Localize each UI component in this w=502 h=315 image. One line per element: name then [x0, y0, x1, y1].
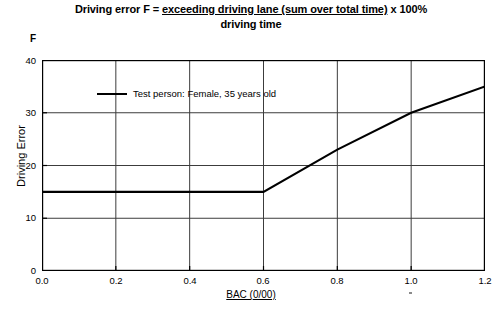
scan-artifact-mark: [409, 292, 412, 294]
y-tick-label-40: 40: [6, 56, 36, 66]
legend-line-swatch: [97, 93, 127, 95]
x-tick-label-0.4: 0.4: [170, 276, 210, 286]
x-tick-label-1.2: 1.2: [465, 276, 502, 286]
title-prefix: Driving error F =: [75, 3, 162, 15]
y-tick-label-10: 10: [6, 213, 36, 223]
y-axis-label: Driving Error: [15, 111, 27, 201]
x-tick-label-1.0: 1.0: [391, 276, 431, 286]
x-axis-label: BAC (0/00): [0, 289, 502, 300]
y-tick-label-30: 30: [6, 108, 36, 118]
y-axis-symbol: F: [30, 33, 36, 44]
x-axis-label-text: BAC (0/00): [226, 289, 275, 300]
x-tick-label-0.6: 0.6: [243, 276, 283, 286]
title-denominator: driving time: [0, 17, 502, 32]
cropped-caption-edge: [0, 309, 502, 315]
legend: Test person: Female, 35 years old: [97, 89, 276, 99]
x-tick-label-0.2: 0.2: [96, 276, 136, 286]
chart-title: Driving error F = exceeding driving lane…: [0, 2, 502, 32]
x-tick-label-0.8: 0.8: [317, 276, 357, 286]
figure: Driving error F = exceeding driving lane…: [0, 0, 502, 315]
legend-label-0: Test person: Female, 35 years old: [133, 89, 276, 99]
y-tick-label-20: 20: [6, 161, 36, 171]
title-suffix: x 100%: [387, 3, 427, 15]
x-tick-label-0.0: 0.0: [22, 276, 62, 286]
title-numerator: exceeding driving lane (sum over total t…: [162, 3, 387, 15]
y-tick-label-0: 0: [6, 266, 36, 276]
